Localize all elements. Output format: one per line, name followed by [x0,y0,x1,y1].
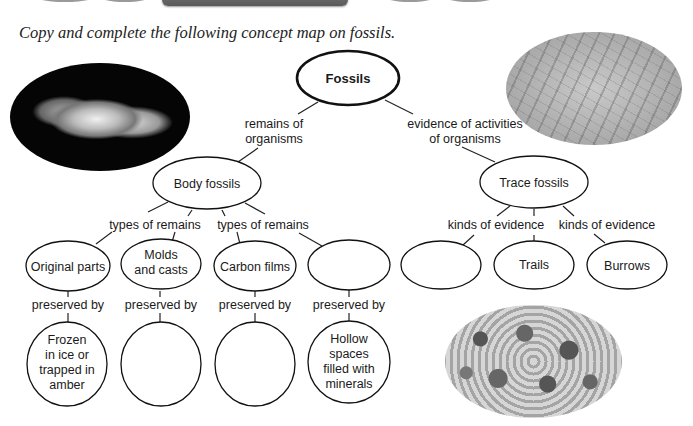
node-label: Frozen [48,333,87,347]
concept-map: Fossils remains of organisms evidence of… [0,0,693,426]
link-label: preserved by [313,298,386,312]
node-label: Carbon films [220,260,290,274]
link-label: preserved by [219,298,292,312]
node-body-fossils: Body fossils [153,157,261,209]
link-label: evidence of activities [407,117,522,131]
link-label: types of remains [109,218,201,232]
node-label: filled with [323,362,374,376]
node-label: Molds [144,248,177,262]
node-label: Trails [519,258,549,272]
node-carbon-films: Carbon films [214,241,296,291]
node-frozen-or-amber: Frozen in ice or trapped in amber [27,322,107,406]
node-blank-trace-evidence[interactable] [401,241,481,289]
node-label: Original parts [31,260,105,274]
link-label: kinds of evidence [448,218,545,232]
node-blank-body-type[interactable] [308,240,390,290]
node-trails: Trails [494,241,574,289]
node-label: amber [49,378,84,392]
node-label: Fossils [326,71,371,86]
link-label: preserved by [32,298,105,312]
link-label: types of remains [217,218,309,232]
node-blank-preservation-2[interactable] [215,322,295,406]
node-label: Burrows [604,259,650,273]
node-label: Hollow [330,332,368,346]
link-label: remains of [245,117,304,131]
link-label: kinds of evidence [559,218,656,232]
node-burrows: Burrows [587,241,667,289]
node-blank-preservation-1[interactable] [121,322,201,406]
node-label: minerals [325,377,372,391]
node-fossils: Fossils [297,51,399,105]
node-trace-fossils: Trace fossils [480,156,588,208]
node-label: and casts [134,263,188,277]
link-label: of organisms [429,132,501,146]
node-original-parts: Original parts [26,241,110,291]
node-label: in ice or [45,348,89,362]
node-molds-and-casts: Molds and casts [121,239,201,289]
edges [68,100,605,323]
node-label: trapped in [39,363,95,377]
node-label: spaces [329,347,369,361]
link-label: preserved by [125,298,198,312]
node-hollow-spaces: Hollow spaces filled with minerals [308,321,390,403]
node-label: Body fossils [174,177,241,191]
link-label: organisms [245,132,303,146]
node-label: Trace fossils [499,176,569,190]
